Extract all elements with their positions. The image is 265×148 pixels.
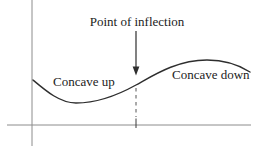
concave-down-label: Concave down (172, 68, 250, 81)
concave-up-label: Concave up (53, 75, 115, 88)
point-of-inflection-label: Point of inflection (90, 15, 185, 28)
inflection-diagram: Point of inflection Concave up Concave d… (0, 0, 265, 148)
inflection-arrowhead (133, 67, 140, 76)
